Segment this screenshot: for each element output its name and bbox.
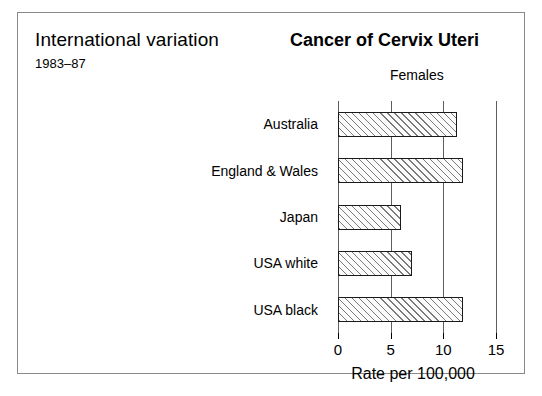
bar bbox=[338, 251, 412, 276]
bar bbox=[338, 205, 401, 230]
category-label: England & Wales bbox=[211, 163, 318, 179]
category-axis-labels: AustraliaEngland & WalesJapanUSA whiteUS… bbox=[38, 101, 318, 333]
category-label: Australia bbox=[264, 116, 318, 132]
bar bbox=[338, 158, 463, 183]
gridline-15 bbox=[496, 101, 497, 333]
x-tick-label-0: 0 bbox=[334, 341, 342, 358]
x-tick-label-15: 15 bbox=[488, 341, 505, 358]
page-title: International variation bbox=[35, 29, 219, 51]
x-tick-5 bbox=[391, 333, 392, 339]
page-subtitle-period: 1983–87 bbox=[35, 56, 86, 71]
x-tick-10 bbox=[443, 333, 444, 339]
chart-subtitle-sex: Females bbox=[390, 67, 444, 83]
category-label: USA white bbox=[253, 255, 318, 271]
category-label: USA black bbox=[253, 302, 318, 318]
chart-frame: International variation 1983–87 Cancer o… bbox=[17, 12, 525, 374]
category-label: Japan bbox=[280, 209, 318, 225]
chart-title: Cancer of Cervix Uteri bbox=[290, 30, 479, 51]
x-tick-label-5: 5 bbox=[386, 341, 394, 358]
x-tick-0 bbox=[338, 333, 339, 339]
x-tick-15 bbox=[496, 333, 497, 339]
bar bbox=[338, 112, 457, 137]
plot-area: 051015 bbox=[338, 101, 496, 333]
x-tick-label-10: 10 bbox=[435, 341, 452, 358]
bar bbox=[338, 297, 463, 322]
x-axis-title: Rate per 100,000 bbox=[298, 365, 528, 383]
